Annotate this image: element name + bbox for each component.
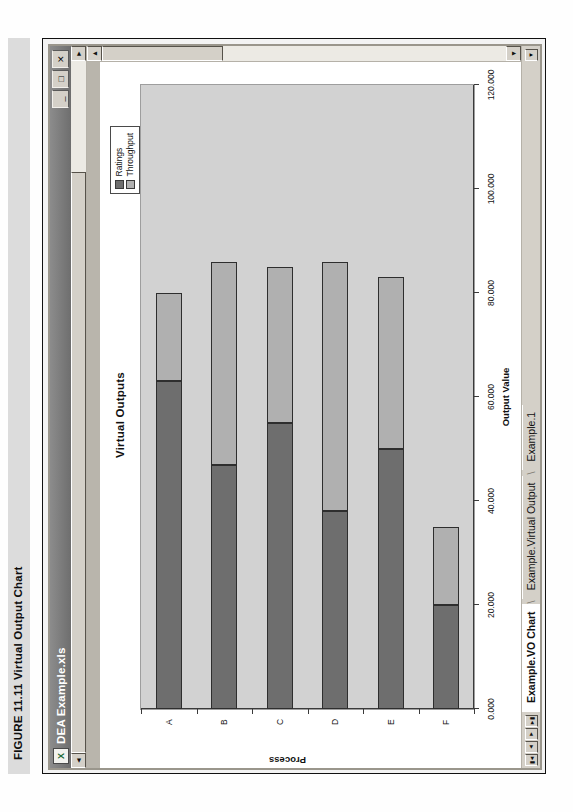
chart-canvas[interactable]: Virtual Outputs Ratings Throughput bbox=[100, 62, 521, 768]
horizontal-scrollbar[interactable]: ◄ ► bbox=[71, 46, 87, 768]
x-tick-label: 60.000 bbox=[486, 384, 496, 410]
x-tick bbox=[474, 188, 479, 189]
vscroll-trough[interactable] bbox=[102, 46, 506, 61]
figure-caption: FIGURE 11.11 Virtual Output Chart bbox=[7, 46, 29, 766]
bar-E[interactable] bbox=[378, 277, 404, 709]
y-tick bbox=[197, 709, 198, 714]
x-tick-label: 0.000 bbox=[486, 698, 496, 719]
x-tick-label: 100.000 bbox=[486, 174, 496, 205]
x-tick-label: 40.000 bbox=[486, 488, 496, 514]
chart-legend[interactable]: Ratings Throughput bbox=[110, 126, 140, 194]
minimize-button[interactable]: _ bbox=[52, 90, 69, 108]
y-tick-label-A: A bbox=[164, 719, 174, 725]
bar-segment-B-ratings[interactable] bbox=[211, 465, 237, 709]
bar-segment-D-throughput[interactable] bbox=[322, 262, 348, 512]
sheet-top-band bbox=[87, 62, 100, 768]
tab-first-icon[interactable]: ▮◄ bbox=[525, 754, 538, 766]
scroll-left-arrow-icon[interactable]: ◄ bbox=[71, 753, 86, 768]
y-tick bbox=[141, 709, 142, 714]
y-tick bbox=[252, 709, 253, 714]
y-tick-label-B: B bbox=[219, 719, 229, 725]
bar-segment-A-ratings[interactable] bbox=[156, 381, 182, 709]
y-tick-label-E: E bbox=[386, 719, 396, 725]
tab-last-icon[interactable]: ►▮ bbox=[525, 715, 538, 727]
tab-prev-icon[interactable]: ◄ bbox=[525, 741, 538, 753]
legend-swatch-ratings bbox=[115, 180, 124, 189]
excel-icon: X bbox=[53, 748, 69, 764]
workbook-area: Virtual Outputs Ratings Throughput bbox=[87, 46, 521, 768]
legend-swatch-throughput bbox=[126, 180, 135, 189]
scroll-right-arrow-icon[interactable]: ► bbox=[71, 46, 86, 61]
window-controls: _ □ ✕ bbox=[52, 48, 69, 108]
x-tick bbox=[474, 396, 479, 397]
bar-F[interactable] bbox=[433, 527, 459, 709]
y-tick bbox=[308, 709, 309, 714]
tab-dropdown-icon[interactable]: ▼ bbox=[525, 49, 538, 61]
legend-item-ratings: Ratings bbox=[114, 133, 125, 189]
plot-inner: ABCDEF0.00020.00040.00060.00080.000100.0… bbox=[141, 85, 474, 709]
rotation-host: X DEA Example.xls _ □ ✕ ◄ bbox=[43, 39, 547, 775]
screenshot-frame: X DEA Example.xls _ □ ✕ ◄ bbox=[42, 38, 546, 774]
y-tick-label-F: F bbox=[441, 720, 451, 725]
x-tick-label: 80.000 bbox=[486, 280, 496, 306]
hscroll-thumb[interactable] bbox=[71, 172, 86, 753]
x-tick bbox=[474, 604, 479, 605]
x-axis-line bbox=[473, 85, 474, 709]
vertical-scrollbar[interactable]: ▲ ▼ bbox=[87, 46, 521, 62]
legend-label-throughput: Throughput bbox=[125, 133, 136, 176]
y-tick bbox=[419, 709, 420, 714]
figure-page: FIGURE 11.11 Virtual Output Chart X DEA … bbox=[0, 0, 573, 812]
sheet-tabs: Example.VO Chart \ Example.Virtual Outpu… bbox=[522, 405, 540, 712]
plot-area[interactable]: ABCDEF0.00020.00040.00060.00080.000100.0… bbox=[140, 84, 475, 710]
sheet-tab-vo-chart[interactable]: Example.VO Chart bbox=[522, 604, 540, 712]
y-axis-title: Process bbox=[100, 752, 475, 768]
bar-segment-C-throughput[interactable] bbox=[267, 267, 293, 423]
sheet-tab-virtual-output[interactable]: Example.Virtual Output bbox=[522, 476, 540, 600]
excel-window: X DEA Example.xls _ □ ✕ ◄ bbox=[48, 44, 542, 770]
close-button[interactable]: ✕ bbox=[52, 50, 69, 68]
legend-label-ratings: Ratings bbox=[114, 148, 125, 177]
window-title: DEA Example.xls bbox=[55, 108, 67, 744]
y-tick bbox=[363, 709, 364, 714]
bar-segment-E-throughput[interactable] bbox=[378, 277, 404, 449]
window-titlebar[interactable]: X DEA Example.xls _ □ ✕ bbox=[50, 46, 71, 768]
y-tick-label-C: C bbox=[275, 719, 285, 725]
sheet-nav-buttons: ▮◄ ◄ ► ►▮ bbox=[522, 715, 540, 768]
hscroll-trough[interactable] bbox=[71, 61, 86, 753]
sheet-tab-bar[interactable]: ▮◄ ◄ ► ►▮ Example.VO Chart \ Example.Vir… bbox=[521, 46, 540, 768]
chart-sheet: Virtual Outputs Ratings Throughput bbox=[87, 62, 521, 768]
y-tick-label-D: D bbox=[330, 719, 340, 725]
bar-segment-C-ratings[interactable] bbox=[267, 423, 293, 709]
x-tick-label: 20.000 bbox=[486, 592, 496, 618]
figure-caption-band: FIGURE 11.11 Virtual Output Chart bbox=[8, 38, 30, 774]
bar-D[interactable] bbox=[322, 262, 348, 709]
tab-next-icon[interactable]: ► bbox=[525, 728, 538, 740]
bar-segment-B-throughput[interactable] bbox=[211, 262, 237, 465]
x-axis-title: Output Value bbox=[500, 84, 511, 710]
sheet-tab-example-1[interactable]: Example.1 bbox=[522, 405, 540, 471]
bar-A[interactable] bbox=[156, 293, 182, 709]
x-tick bbox=[474, 84, 479, 85]
bar-segment-F-throughput[interactable] bbox=[433, 527, 459, 605]
scroll-up-arrow-icon[interactable]: ▲ bbox=[87, 46, 102, 61]
bar-segment-A-throughput[interactable] bbox=[156, 293, 182, 381]
y-tick bbox=[474, 709, 475, 714]
bar-segment-D-ratings[interactable] bbox=[322, 511, 348, 709]
maximize-button[interactable]: □ bbox=[52, 70, 69, 88]
x-tick bbox=[474, 292, 479, 293]
bar-C[interactable] bbox=[267, 267, 293, 709]
scroll-down-arrow-icon[interactable]: ▼ bbox=[506, 46, 521, 61]
vscroll-thumb[interactable] bbox=[102, 46, 223, 61]
bar-B[interactable] bbox=[211, 262, 237, 709]
bar-segment-E-ratings[interactable] bbox=[378, 449, 404, 709]
legend-item-throughput: Throughput bbox=[125, 133, 136, 189]
x-tick-label: 120.000 bbox=[486, 70, 496, 101]
x-tick bbox=[474, 500, 479, 501]
bar-segment-F-ratings[interactable] bbox=[433, 605, 459, 709]
window-body: ◄ ► Virtual Outputs bbox=[71, 46, 540, 768]
x-tick bbox=[474, 708, 479, 709]
